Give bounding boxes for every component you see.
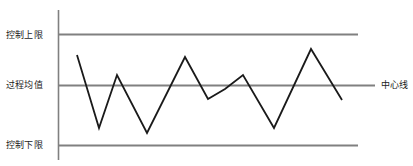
control-chart-canvas: [0, 0, 413, 166]
process-mean-label: 过程均值: [6, 80, 43, 90]
data-series-line: [77, 49, 342, 133]
control-chart: 控制上限 过程均值 控制下限 中心线: [0, 0, 413, 166]
upper-control-limit-label: 控制上限: [6, 30, 43, 40]
center-line-label: 中心线: [381, 80, 409, 90]
lower-control-limit-label: 控制下限: [6, 140, 43, 150]
